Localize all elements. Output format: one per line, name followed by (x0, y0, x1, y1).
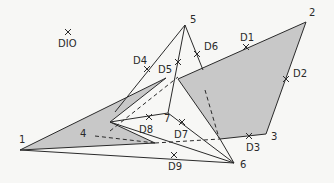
marker-d7: D7 (174, 119, 188, 140)
left-region (20, 78, 166, 150)
marker-d9: D9 (168, 152, 182, 172)
marker-label: D7 (174, 129, 188, 140)
marker-label: D5 (158, 64, 172, 75)
vertex-label-7: 7 (164, 113, 170, 124)
e-5-right (185, 25, 203, 70)
marker-label: DIO (58, 38, 77, 49)
marker-label: D3 (246, 142, 260, 153)
vertex-label-5: 5 (190, 14, 196, 25)
vertex-label-4: 4 (80, 128, 86, 139)
marker-label: D2 (293, 68, 307, 79)
cross-icon (146, 114, 152, 120)
marker-d6: D6 (194, 41, 218, 57)
marker-label: D6 (204, 41, 218, 52)
vertex-label-1: 1 (19, 134, 25, 145)
cross-icon (65, 29, 71, 35)
marker-d5: D5 (158, 59, 181, 75)
marker-d4: D4 (133, 55, 150, 72)
vertex-label-6: 6 (240, 159, 246, 170)
marker-d10: DIO (58, 29, 77, 49)
cross-icon (171, 152, 177, 158)
marker-label: D4 (133, 55, 147, 66)
vertex-label-2: 2 (309, 7, 315, 18)
marker-label: D9 (168, 161, 182, 172)
vertex-label-3: 3 (271, 131, 277, 142)
marker-label: D8 (139, 124, 153, 135)
polygon-diagram: D1D2D3D4D5D6D7D8D9DIO 1234567 (0, 0, 334, 183)
marker-label: D1 (240, 32, 254, 43)
